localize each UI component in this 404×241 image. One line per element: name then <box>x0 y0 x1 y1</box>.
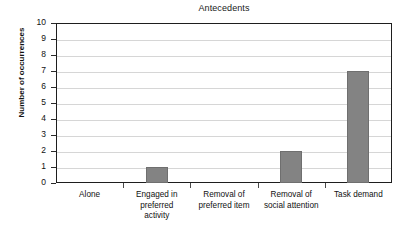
y-tick-mark <box>51 23 56 24</box>
y-tick-mark <box>51 135 56 136</box>
y-tick-mark <box>51 55 56 56</box>
x-axis-label-line: social attention <box>258 201 325 212</box>
gridlines <box>57 24 391 182</box>
x-axis-label-line: Removal of <box>190 190 257 201</box>
y-tick-mark <box>51 151 56 152</box>
y-tick-mark <box>51 71 56 72</box>
gridline <box>57 136 391 137</box>
x-tick-mark <box>325 183 326 188</box>
chart-title: Antecedents <box>56 3 392 13</box>
x-axis-label-line: activity <box>123 211 190 222</box>
x-axis-label: Task demand <box>325 190 392 201</box>
x-axis-label-line: preferred <box>123 201 190 212</box>
x-axis-label: Alone <box>56 190 123 201</box>
x-axis-labels: AloneEngaged inpreferredactivityRemoval … <box>56 190 392 238</box>
x-axis-label-line: Engaged in <box>123 190 190 201</box>
y-tick-label: 2 <box>41 145 46 156</box>
y-tick-label: 7 <box>41 65 46 76</box>
y-tick-label: 6 <box>41 81 46 92</box>
x-tick-mark <box>258 183 259 188</box>
gridline <box>57 56 391 57</box>
gridline <box>57 72 391 73</box>
x-axis-label: Removal ofsocial attention <box>258 190 325 211</box>
bar-chart-figure: Antecedents Number of occurrences 109876… <box>0 0 404 241</box>
gridline <box>57 152 391 153</box>
y-tick-mark <box>51 167 56 168</box>
y-tick-mark <box>51 119 56 120</box>
y-tick-label: 8 <box>41 49 46 60</box>
gridline <box>57 88 391 89</box>
x-axis-ticks <box>56 183 392 189</box>
y-tick-label: 3 <box>41 129 46 140</box>
y-tick-label: 5 <box>41 97 46 108</box>
plot-area <box>56 23 392 183</box>
y-tick-mark <box>51 39 56 40</box>
y-tick-label: 0 <box>41 177 46 188</box>
gridline <box>57 120 391 121</box>
x-axis-label: Removal ofpreferred item <box>190 190 257 211</box>
y-tick-mark <box>51 103 56 104</box>
gridline <box>57 168 391 169</box>
gridline <box>57 40 391 41</box>
gridline <box>57 104 391 105</box>
x-axis-label-line: preferred item <box>190 201 257 212</box>
y-tick-mark <box>51 87 56 88</box>
y-tick-label: 10 <box>37 17 46 28</box>
x-axis-label-line: Alone <box>56 190 123 201</box>
x-axis-label: Engaged inpreferredactivity <box>123 190 190 222</box>
x-tick-mark <box>190 183 191 188</box>
y-tick-label: 9 <box>41 33 46 44</box>
x-tick-mark <box>123 183 124 188</box>
y-tick-label: 1 <box>41 161 46 172</box>
y-tick-label: 4 <box>41 113 46 124</box>
y-axis-ticks: 109876543210 <box>0 23 56 183</box>
x-axis-label-line: Removal of <box>258 190 325 201</box>
x-axis-label-line: Task demand <box>325 190 392 201</box>
